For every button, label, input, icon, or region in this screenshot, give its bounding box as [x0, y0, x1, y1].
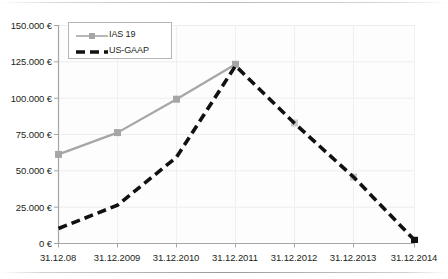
y-tick-label-100000: 100.000 € [0, 93, 52, 104]
y-tick-label-125000: 125.000 € [0, 56, 52, 67]
series-markers-usgaap [411, 237, 418, 243]
y-tick-label-150000: 150.000 € [0, 20, 52, 31]
y-tick-label-50000: 50.000 € [0, 165, 52, 176]
y-axis-ticks [54, 26, 58, 244]
legend-label-usgaap: US-GAAP [109, 45, 149, 55]
legend-item-usgaap[interactable]: US-GAAP [69, 43, 173, 57]
y-tick-label-75000: 75.000 € [0, 129, 52, 140]
chart-container: 150.000 € 125.000 € 100.000 € 75.000 € 5… [0, 0, 448, 279]
legend-label-ias19: IAS 19 [109, 29, 135, 39]
chart-legend: IAS 19 US-GAAP [68, 22, 172, 59]
line-solid-square-marker-icon [75, 28, 109, 40]
y-tick-label-0: 0 € [0, 238, 52, 249]
x-tick-label-2014: 31.12.2014 [379, 252, 448, 263]
x-axis-ticks [59, 244, 415, 248]
x-tick-label-2013: 31.12.2013 [318, 252, 388, 263]
legend-item-ias19[interactable]: IAS 19 [69, 27, 173, 41]
line-dashed-icon [75, 44, 109, 56]
y-tick-label-25000: 25.000 € [0, 202, 52, 213]
